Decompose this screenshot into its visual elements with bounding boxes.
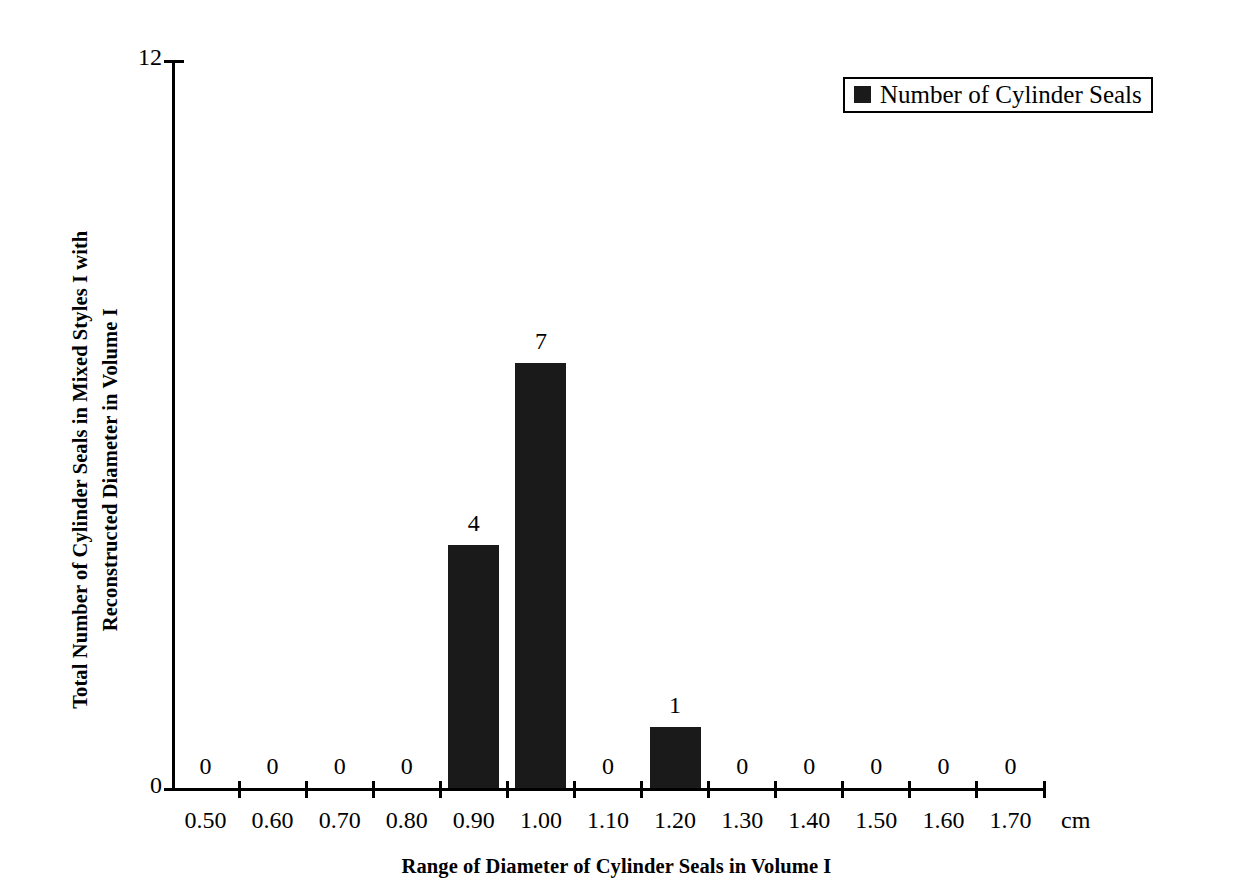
bar-category: 01.10 bbox=[574, 60, 641, 791]
bar-category: 00.50 bbox=[172, 60, 239, 791]
x-axis-unit-label: cm bbox=[1061, 808, 1090, 832]
bar-value-label: 0 bbox=[709, 754, 776, 778]
bar-value-label: 0 bbox=[172, 754, 239, 778]
x-axis-tick-label: 1.20 bbox=[642, 808, 709, 832]
x-axis-title: Range of Diameter of Cylinder Seals in V… bbox=[0, 855, 1233, 878]
bar-value-label: 0 bbox=[843, 754, 910, 778]
bar-category: 00.80 bbox=[373, 60, 440, 791]
bar-value-label: 1 bbox=[642, 693, 709, 717]
bar-category: 01.30 bbox=[709, 60, 776, 791]
bar-series: 00.5000.6000.7000.8040.9071.0001.1011.20… bbox=[172, 60, 1044, 791]
y-axis-title-line-1: Total Number of Cylinder Seals in Mixed … bbox=[69, 231, 91, 709]
bar-category: 01.50 bbox=[843, 60, 910, 791]
bar-category: 00.70 bbox=[306, 60, 373, 791]
bar-category: 01.40 bbox=[776, 60, 843, 791]
bar-value-label: 0 bbox=[306, 754, 373, 778]
x-axis-tick-label: 1.10 bbox=[574, 808, 641, 832]
bar-value-label: 7 bbox=[507, 329, 574, 353]
bar[interactable] bbox=[448, 545, 499, 788]
bar[interactable] bbox=[515, 363, 566, 788]
plot-area: 12 0 00.5000.6000.7000.8040.9071.0001.10… bbox=[172, 60, 1183, 790]
x-axis-tick-label: 1.40 bbox=[776, 808, 843, 832]
x-axis-tick-label: 1.30 bbox=[709, 808, 776, 832]
x-axis-tick-label: 1.70 bbox=[977, 808, 1044, 832]
bar-value-label: 0 bbox=[776, 754, 843, 778]
x-axis-tick-label: 0.70 bbox=[306, 808, 373, 832]
x-axis-tick-label: 1.50 bbox=[843, 808, 910, 832]
y-axis-title-line-2: Reconstructed Diameter in Volume I bbox=[99, 308, 121, 631]
x-axis-tick-label: 0.80 bbox=[373, 808, 440, 832]
bar-value-label: 0 bbox=[373, 754, 440, 778]
bar-value-label: 4 bbox=[440, 511, 507, 535]
x-axis-tick bbox=[1043, 781, 1046, 798]
bar-value-label: 0 bbox=[239, 754, 306, 778]
bar-value-label: 0 bbox=[910, 754, 977, 778]
y-axis-label-max: 12 bbox=[130, 44, 162, 71]
bar-category: 00.60 bbox=[239, 60, 306, 791]
x-axis-tick-label: 0.90 bbox=[440, 808, 507, 832]
y-axis-label-min: 0 bbox=[130, 772, 162, 799]
bar-category: 11.20 bbox=[642, 60, 709, 791]
bar-category: 71.00 bbox=[507, 60, 574, 791]
bar-category: 40.90 bbox=[440, 60, 507, 791]
bar-value-label: 0 bbox=[574, 754, 641, 778]
bar-value-label: 0 bbox=[977, 754, 1044, 778]
y-axis-title: Total Number of Cylinder Seals in Mixed … bbox=[66, 160, 125, 780]
x-axis-tick-label: 0.50 bbox=[172, 808, 239, 832]
bar[interactable] bbox=[650, 727, 701, 788]
bar-category: 01.60 bbox=[910, 60, 977, 791]
x-axis-tick-label: 1.00 bbox=[507, 808, 574, 832]
x-axis-tick-label: 0.60 bbox=[239, 808, 306, 832]
bar-category: 01.70 bbox=[977, 60, 1044, 791]
x-axis-tick-label: 1.60 bbox=[910, 808, 977, 832]
